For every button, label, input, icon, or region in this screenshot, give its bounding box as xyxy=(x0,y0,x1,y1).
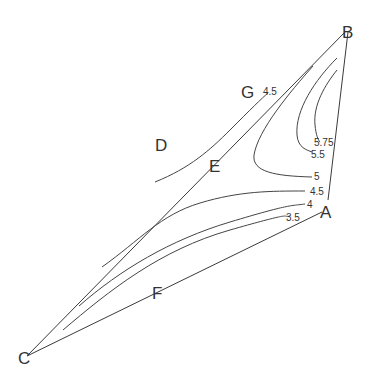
contour-label: 3.5 xyxy=(286,212,300,223)
contour-label: 4.5 xyxy=(263,86,277,97)
vertex-label-a: A xyxy=(320,203,332,222)
contour-5 xyxy=(254,66,313,177)
contour-4-5-lower xyxy=(102,191,305,267)
contour-label: 4 xyxy=(307,199,313,210)
edge-a-c xyxy=(27,212,322,356)
contour-5-75 xyxy=(315,70,337,142)
edge-b-a xyxy=(328,32,348,200)
vertex-label-d: D xyxy=(155,136,167,155)
contour-diagram: 3.5 4 4.5 4.5 5 5.5 5.75 A B C D E F G xyxy=(0,0,376,387)
point-label-e: E xyxy=(209,157,220,176)
contour-label: 5.75 xyxy=(314,137,334,148)
vertex-label-b: B xyxy=(342,23,353,42)
contour-label: 4.5 xyxy=(310,186,324,197)
edge-c-b xyxy=(27,32,345,356)
point-label-f: F xyxy=(152,284,162,303)
contour-label: 5.5 xyxy=(311,149,325,160)
contour-3-5 xyxy=(63,216,290,330)
contour-label: 5 xyxy=(314,171,320,182)
point-label-g: G xyxy=(241,83,254,102)
vertex-label-c: C xyxy=(18,349,30,368)
